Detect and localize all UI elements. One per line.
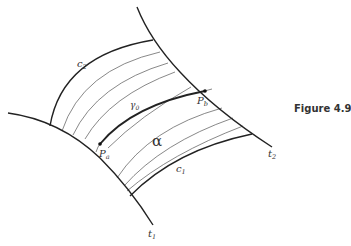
- label-gamma: γ0: [130, 100, 139, 111]
- c1-curve: [130, 134, 252, 196]
- label-c1: c1: [176, 163, 186, 176]
- label-t2: t2: [268, 148, 276, 161]
- t1-curve: [8, 113, 153, 225]
- coordinate-curves: [62, 52, 243, 191]
- label-pa: Pa: [98, 148, 110, 161]
- curve-6: [124, 118, 233, 186]
- figure-caption: Figure 4.9: [294, 103, 351, 114]
- label-region-alpha: α: [152, 132, 162, 150]
- curve-5: [117, 108, 222, 178]
- curve-7: [127, 126, 243, 191]
- curve-4: [108, 87, 191, 148]
- point-pb: [203, 89, 207, 93]
- t2-curve: [137, 7, 272, 147]
- point-pa: [98, 142, 102, 146]
- label-t1: t1: [148, 228, 156, 241]
- boundary-curves: [8, 7, 272, 225]
- label-c2: c2: [77, 58, 87, 71]
